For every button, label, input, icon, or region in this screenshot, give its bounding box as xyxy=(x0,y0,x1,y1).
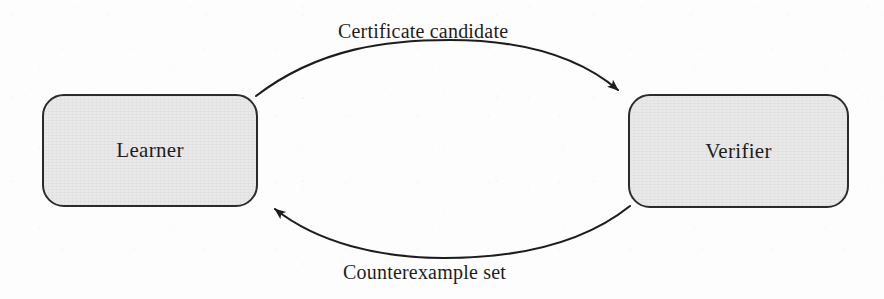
edge-label-counterexample-set: Counterexample set xyxy=(343,261,506,284)
node-learner[interactable]: Learner xyxy=(42,94,258,207)
node-verifier[interactable]: Verifier Verifier xyxy=(628,94,849,208)
edge-arrow-verifier-to-learner xyxy=(275,206,630,258)
node-learner-label: Learner xyxy=(116,138,183,163)
diagram-canvas: Learner Verifier Verifier Certificate ca… xyxy=(0,0,884,299)
edge-arrow-learner-to-verifier xyxy=(256,40,618,96)
node-verifier-label: Verifier xyxy=(705,139,772,164)
edge-label-certificate-candidate: Certificate candidate xyxy=(338,20,508,43)
